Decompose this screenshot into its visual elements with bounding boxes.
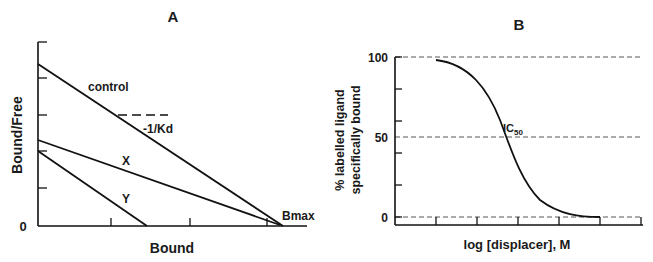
panel-a-zero: 0 xyxy=(19,219,26,234)
panel-a-x-label: Bound xyxy=(150,240,194,256)
panel-b-y-label-line1: % labelled ligand xyxy=(333,89,347,190)
panel-a: A control -1/Kd X Y Bmax 0 Bound B xyxy=(9,8,315,256)
panel-b-x-label: log [displacer], M xyxy=(464,237,571,252)
x-label: X xyxy=(122,154,130,168)
panel-a-x-ticks xyxy=(111,218,267,226)
panel-b-y-label: % labelled ligand specifically bound xyxy=(333,85,363,194)
x-line xyxy=(38,140,280,225)
panel-b-title: B xyxy=(514,16,525,33)
tick-0: 0 xyxy=(381,211,388,225)
panel-b-x-ticks xyxy=(436,217,641,225)
y-line xyxy=(38,151,147,226)
tick-50: 50 xyxy=(375,131,389,145)
displacement-curve xyxy=(436,60,600,217)
tick-100: 100 xyxy=(368,51,388,65)
panel-b-gridlines xyxy=(395,57,643,217)
figure: A control -1/Kd X Y Bmax 0 Bound B xyxy=(0,0,653,262)
control-line xyxy=(38,64,283,226)
panel-b: B 100 50 0 xyxy=(333,16,643,252)
kd-label: -1/Kd xyxy=(143,122,173,136)
panel-a-y-label: Bound/Free xyxy=(9,96,25,174)
control-label: control xyxy=(88,80,129,94)
y-label: Y xyxy=(122,192,130,206)
panel-a-title: A xyxy=(168,8,179,25)
panel-b-y-label-line2: specifically bound xyxy=(349,85,363,194)
bmax-label: Bmax xyxy=(282,209,315,223)
